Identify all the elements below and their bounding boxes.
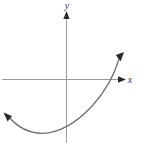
curve-left-arrow-icon xyxy=(4,113,13,122)
x-axis-label: x xyxy=(127,74,133,85)
graph-figure: x y xyxy=(0,0,142,143)
x-axis-arrow-icon xyxy=(118,76,126,82)
y-axis-label: y xyxy=(64,0,70,11)
parabola-curve xyxy=(9,59,119,133)
y-axis-arrow-icon xyxy=(63,11,69,19)
curve-right-arrow-icon xyxy=(116,52,124,61)
coordinate-plane-svg: x y xyxy=(0,0,142,143)
